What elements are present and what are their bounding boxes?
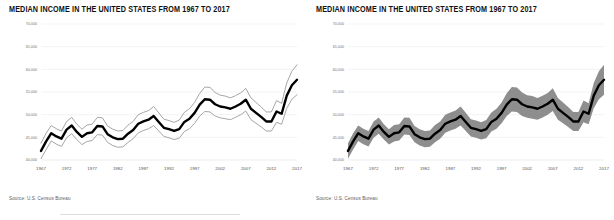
confidence-band xyxy=(348,65,604,159)
y-axis-tick-label: 65,000 xyxy=(333,45,344,49)
x-axis-tick-label: 1982 xyxy=(420,166,430,171)
x-axis-tick-label: 2007 xyxy=(241,166,251,171)
x-axis-tick-label: 2012 xyxy=(574,166,584,171)
y-axis-tick-label: 65,000 xyxy=(26,45,37,49)
x-axis-tick-label: 1987 xyxy=(446,166,456,171)
x-axis-tick-label: 1982 xyxy=(113,166,123,171)
y-axis-tick-label: 60,000 xyxy=(26,68,37,72)
x-axis-tick-label: 2017 xyxy=(599,166,609,171)
y-axis-tick-label: 50,000 xyxy=(333,113,344,117)
y-axis-tick-label: 40,000 xyxy=(26,158,37,162)
y-axis-tick-label: 40,000 xyxy=(333,158,344,162)
x-axis-tick-label: 1972 xyxy=(62,166,72,171)
footer-divider xyxy=(60,214,240,215)
x-axis-tick-label: 1997 xyxy=(190,166,200,171)
x-axis-tick-label: 1992 xyxy=(471,166,481,171)
plot-area-left: 40,00045,00050,00055,00060,00065,00070,0… xyxy=(0,18,307,178)
x-axis-tick-label: 2017 xyxy=(292,166,302,171)
x-axis-tick-label: 1972 xyxy=(369,166,379,171)
y-axis-tick-label: 70,000 xyxy=(26,22,37,26)
x-axis-tick-label: 2007 xyxy=(548,166,558,171)
plot-area-right: 40,00045,00050,00055,00060,00065,00070,0… xyxy=(307,18,614,178)
chart-panel-left: MEDIAN INCOME IN THE UNITED STATES FROM … xyxy=(0,0,307,220)
x-axis-tick-label: 1977 xyxy=(87,166,97,171)
upper-bound-line xyxy=(41,65,297,143)
x-axis-tick-label: 2012 xyxy=(267,166,277,171)
line-chart-ci-band: 40,00045,00050,00055,00060,00065,00070,0… xyxy=(307,18,614,178)
y-axis-tick-label: 45,000 xyxy=(26,136,37,140)
y-axis-tick-label: 60,000 xyxy=(333,68,344,72)
y-axis-tick-label: 45,000 xyxy=(333,136,344,140)
x-axis-tick-label: 1992 xyxy=(164,166,174,171)
page-title: MEDIAN INCOME IN THE UNITED STATES FROM … xyxy=(9,4,230,14)
y-axis-tick-label: 50,000 xyxy=(26,113,37,117)
source-note: Source: U.S. Census Bureau xyxy=(9,196,71,201)
page-title: MEDIAN INCOME IN THE UNITED STATES FROM … xyxy=(316,4,537,14)
chart-panel-right: MEDIAN INCOME IN THE UNITED STATES FROM … xyxy=(307,0,614,220)
x-axis-tick-label: 1997 xyxy=(497,166,507,171)
x-axis-tick-label: 1967 xyxy=(36,166,46,171)
x-axis-tick-label: 1987 xyxy=(139,166,149,171)
y-axis-tick-label: 55,000 xyxy=(26,90,37,94)
y-axis-tick-label: 55,000 xyxy=(333,90,344,94)
x-axis-tick-label: 2002 xyxy=(215,166,225,171)
line-chart-ci-lines: 40,00045,00050,00055,00060,00065,00070,0… xyxy=(0,18,307,178)
source-note: Source: U.S. Census Bureau xyxy=(316,196,378,201)
median-income-line xyxy=(41,80,297,151)
dual-chart-page: MEDIAN INCOME IN THE UNITED STATES FROM … xyxy=(0,0,614,220)
x-axis-tick-label: 1977 xyxy=(394,166,404,171)
x-axis-tick-label: 1967 xyxy=(343,166,353,171)
x-axis-tick-label: 2002 xyxy=(522,166,532,171)
y-axis-tick-label: 70,000 xyxy=(333,22,344,26)
